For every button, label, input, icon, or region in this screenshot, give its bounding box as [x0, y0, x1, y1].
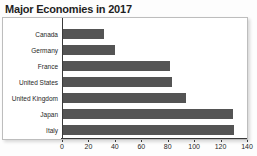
bar-row: Canada [3, 26, 246, 42]
chart-title: Major Economies in 2017 [5, 3, 132, 15]
x-tick-label: 40 [111, 143, 119, 150]
x-tick-mark [115, 140, 116, 142]
bar-row: Japan [3, 106, 246, 122]
y-axis-line [62, 18, 63, 139]
bar-chart-widget: Major Economies in 2017 CanadaGermanyFra… [0, 0, 257, 156]
x-tick-label: 100 [188, 143, 200, 150]
x-tick-mark [168, 140, 169, 142]
bar-rows: CanadaGermanyFranceUnited StatesUnited K… [3, 26, 246, 138]
bar [62, 29, 104, 39]
bar-track [62, 61, 246, 71]
bar [62, 45, 115, 55]
plot-area: CanadaGermanyFranceUnited StatesUnited K… [2, 17, 248, 140]
bar [62, 109, 233, 119]
category-label: Canada [3, 31, 62, 38]
bar-row: United States [3, 74, 246, 90]
x-axis-line [61, 138, 247, 139]
bar-track [62, 45, 246, 55]
x-tick-mark [247, 140, 248, 142]
x-tick-label: 60 [137, 143, 145, 150]
x-tick-mark [194, 140, 195, 142]
category-label: Germany [3, 47, 62, 54]
category-label: United Kingdom [3, 95, 62, 102]
category-label: Japan [3, 111, 62, 118]
category-label: United States [3, 79, 62, 86]
bar [62, 61, 170, 71]
x-tick-mark [88, 140, 89, 142]
x-tick-label: 140 [241, 143, 253, 150]
bar [62, 93, 186, 103]
x-tick-label: 120 [215, 143, 227, 150]
x-tick-label: 80 [164, 143, 172, 150]
category-label: France [3, 63, 62, 70]
bar-row: Germany [3, 42, 246, 58]
bar-track [62, 29, 246, 39]
bar-row: France [3, 58, 246, 74]
x-tick-mark [221, 140, 222, 142]
bar-row: United Kingdom [3, 90, 246, 106]
x-axis-ticks: 020406080100120140 [62, 142, 247, 153]
bar-track [62, 109, 246, 119]
bar [62, 77, 172, 87]
bar-row: Italy [3, 122, 246, 138]
bar-track [62, 125, 246, 135]
x-tick-label: 0 [60, 143, 64, 150]
x-tick-mark [62, 140, 63, 142]
bar [62, 125, 234, 135]
x-tick-label: 20 [85, 143, 93, 150]
bar-track [62, 77, 246, 87]
bar-track [62, 93, 246, 103]
category-label: Italy [3, 127, 62, 134]
x-tick-mark [141, 140, 142, 142]
